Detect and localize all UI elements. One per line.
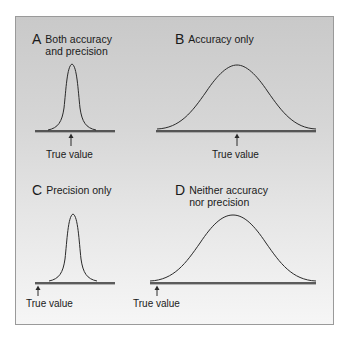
panel-d-true-value-label: True value (133, 298, 180, 309)
panel-d-arrow-icon (155, 286, 160, 297)
panel-a-arrow-icon (69, 134, 74, 147)
panel-d-title-line2: nor precision (189, 196, 249, 208)
panel-b-arrow-icon (235, 134, 240, 147)
panel-c-letter: C (32, 182, 42, 198)
panel-d-curve (150, 215, 316, 281)
panel-b-title-line1: Accuracy only (188, 33, 253, 45)
panel-a-true-value-label: True value (46, 149, 93, 160)
panel-a-curve (48, 64, 96, 130)
panel-a-heading: ABoth accuracyand precision (32, 33, 112, 57)
panel-c-plot (35, 214, 115, 296)
panel-a-plot (35, 64, 115, 146)
panel-c-arrow-icon (36, 286, 41, 297)
panel-b-curve (157, 65, 316, 129)
panel-a-letter: A (32, 31, 41, 47)
panel-c-title-line1: Precision only (46, 184, 111, 196)
panel-b-letter: B (175, 31, 184, 47)
panel-d-title-line1: Neither accuracy (189, 184, 268, 196)
panel-d-plot (150, 215, 316, 296)
panel-a-title-line1: Both accuracy (45, 33, 112, 45)
panel-c-true-value-label: True value (26, 298, 73, 309)
panel-d-letter: D (175, 182, 185, 198)
panel-b-heading: BAccuracy only (175, 33, 254, 45)
panel-b-plot (156, 65, 316, 146)
panel-a-title-line2: and precision (45, 45, 107, 57)
panel-c-heading: CPrecision only (32, 184, 112, 196)
panel-b-true-value-label: True value (212, 149, 259, 160)
panel-c-curve (49, 214, 97, 281)
panel-d-heading: DNeither accuracynor precision (175, 184, 268, 208)
